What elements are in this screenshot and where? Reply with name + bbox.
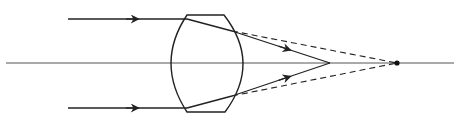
upper-ray: [68, 19, 397, 63]
lower-ray-inside-lens: [187, 96, 232, 108]
upper-ray-inside-lens: [187, 19, 232, 31]
focal-point-dot: [394, 60, 399, 65]
lower-ray-outgoing-arrow-icon: [279, 76, 290, 80]
upper-ray-outgoing-arrow-icon: [279, 46, 290, 50]
lens-ray-diagram: [0, 0, 457, 121]
